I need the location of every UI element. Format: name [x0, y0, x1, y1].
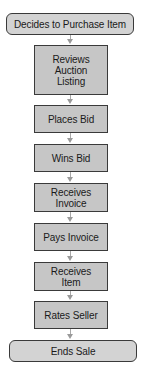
arrow-down-icon	[67, 99, 73, 104]
node-label: Reviews Auction Listing	[47, 54, 95, 87]
start-terminator: Decides to Purchase Item	[6, 13, 134, 35]
process-pays-invoice: Pays Invoice	[34, 223, 108, 251]
process-rates-seller: Rates Seller	[34, 301, 108, 329]
node-label: Ends Sale	[51, 346, 96, 357]
process-reviews-auction-listing: Reviews Auction Listing	[34, 45, 108, 95]
arrow-down-icon	[67, 256, 73, 261]
arrow-down-icon	[67, 177, 73, 182]
arrow-down-icon	[67, 217, 73, 222]
node-label: Decides to Purchase Item	[14, 19, 126, 30]
process-places-bid: Places Bid	[34, 105, 108, 133]
node-label: Rates Seller	[44, 310, 97, 321]
end-terminator: Ends Sale	[9, 340, 137, 362]
process-receives-item: Receives Item	[34, 262, 108, 291]
arrow-down-icon	[67, 334, 73, 339]
node-label: Places Bid	[48, 114, 94, 125]
node-label: Pays Invoice	[43, 232, 99, 243]
node-label: Receives Item	[46, 266, 96, 288]
node-label: Receives Invoice	[46, 187, 96, 209]
process-wins-bid: Wins Bid	[34, 144, 108, 172]
arrow-down-icon	[67, 295, 73, 300]
arrow-down-icon	[67, 138, 73, 143]
arrow-down-icon	[67, 39, 73, 44]
node-label: Wins Bid	[52, 153, 91, 164]
process-receives-invoice: Receives Invoice	[34, 183, 108, 212]
